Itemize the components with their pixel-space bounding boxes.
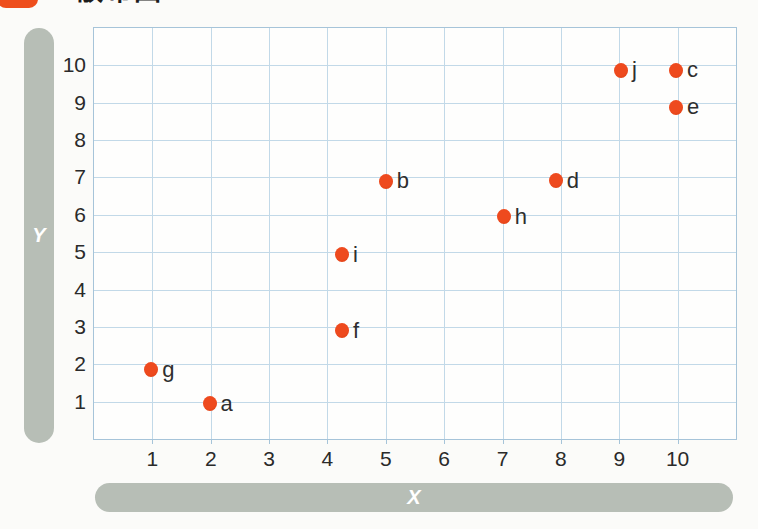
data-point-label-j: j — [632, 58, 637, 82]
y-tick-label-4: 4 — [42, 279, 86, 301]
data-point-label-g: g — [162, 358, 174, 382]
x-tick-mark-3 — [269, 440, 270, 444]
gridline-y-2 — [94, 364, 736, 365]
y-tick-label-3: 3 — [42, 316, 86, 338]
x-tick-label-7: 7 — [481, 447, 525, 470]
x-tick-label-4: 4 — [305, 447, 349, 470]
gridline-y-10 — [94, 65, 736, 66]
data-point-d — [549, 173, 563, 188]
data-point-label-h: h — [515, 205, 527, 229]
gridline-x-7 — [503, 28, 504, 439]
data-point-label-a: a — [221, 392, 233, 416]
data-point-b — [379, 174, 393, 189]
data-point-f — [335, 323, 349, 338]
y-tick-label-6: 6 — [42, 204, 86, 226]
y-tick-label-1: 1 — [42, 391, 86, 413]
gridline-y-3 — [94, 327, 736, 328]
page-title: 散布図 — [76, 0, 163, 5]
gridline-y-9 — [94, 103, 736, 104]
y-tick-label-5: 5 — [42, 241, 86, 263]
data-point-label-d: d — [567, 169, 579, 193]
x-tick-label-10: 10 — [656, 447, 700, 470]
x-tick-mark-7 — [503, 440, 504, 444]
gridline-y-6 — [94, 215, 736, 216]
gridline-x-5 — [386, 28, 387, 439]
y-tick-label-9: 9 — [42, 92, 86, 114]
data-point-j — [614, 63, 628, 78]
data-point-h — [497, 209, 511, 224]
x-tick-mark-1 — [152, 440, 153, 444]
x-axis-label: X — [407, 486, 420, 509]
x-tick-label-3: 3 — [247, 447, 291, 470]
y-tick-label-8: 8 — [42, 129, 86, 151]
gridline-x-2 — [211, 28, 212, 439]
x-tick-mark-2 — [211, 440, 212, 444]
x-tick-label-2: 2 — [189, 447, 233, 470]
x-tick-label-5: 5 — [364, 447, 408, 470]
gridline-x-1 — [152, 28, 153, 439]
data-point-label-b: b — [397, 169, 409, 193]
gridline-y-4 — [94, 290, 736, 291]
data-point-label-f: f — [353, 319, 359, 343]
plot-area: abcdefghij — [93, 27, 737, 440]
x-tick-mark-9 — [619, 440, 620, 444]
x-axis-bar: X — [95, 483, 733, 512]
x-tick-label-8: 8 — [539, 447, 583, 470]
x-tick-mark-4 — [327, 440, 328, 444]
x-tick-label-1: 1 — [130, 447, 174, 470]
data-point-g — [144, 362, 158, 377]
gridline-y-8 — [94, 140, 736, 141]
data-point-a — [203, 396, 217, 411]
title-bullet-icon — [0, 0, 38, 8]
y-tick-label-10: 10 — [42, 54, 86, 76]
data-point-label-e: e — [687, 95, 699, 119]
x-tick-mark-10 — [678, 440, 679, 444]
y-tick-label-7: 7 — [42, 166, 86, 188]
data-point-c — [669, 63, 683, 78]
gridline-y-7 — [94, 177, 736, 178]
x-tick-mark-6 — [444, 440, 445, 444]
gridline-x-8 — [561, 28, 562, 439]
gridline-y-5 — [94, 252, 736, 253]
x-tick-label-6: 6 — [422, 447, 466, 470]
y-axis-bar: Y — [24, 28, 54, 443]
gridline-x-6 — [444, 28, 445, 439]
x-tick-mark-5 — [386, 440, 387, 444]
data-point-i — [335, 247, 349, 262]
gridline-y-1 — [94, 402, 736, 403]
gridline-x-10 — [678, 28, 679, 439]
data-point-label-i: i — [353, 243, 358, 267]
gridline-x-3 — [269, 28, 270, 439]
data-point-label-c: c — [687, 58, 698, 82]
y-tick-label-2: 2 — [42, 353, 86, 375]
gridline-x-9 — [619, 28, 620, 439]
x-tick-label-9: 9 — [597, 447, 641, 470]
x-tick-mark-8 — [561, 440, 562, 444]
gridline-x-4 — [327, 28, 328, 439]
data-point-e — [669, 100, 683, 115]
